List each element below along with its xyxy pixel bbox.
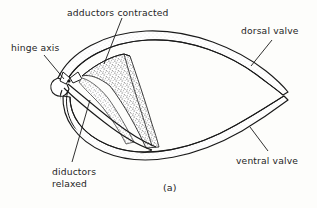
panel-label: (a) <box>163 182 177 194</box>
label-hinge-axis: hinge axis <box>11 42 60 54</box>
leader-dorsal-valve <box>251 40 272 66</box>
label-diductors-line2: relaxed <box>52 178 96 190</box>
label-ventral-valve: ventral valve <box>236 155 298 167</box>
leader-ventral-valve <box>250 127 268 151</box>
hinge-region <box>51 72 82 96</box>
label-diductors-relaxed: diductors relaxed <box>52 166 96 189</box>
ventral-valve <box>63 96 288 160</box>
label-adductors-contracted: adductors contracted <box>67 7 169 19</box>
adductor-muscles-contracted <box>79 54 159 148</box>
label-dorsal-valve: dorsal valve <box>241 25 299 37</box>
label-diductors-line1: diductors <box>52 166 96 178</box>
figure-page: adductors contracted hinge axis dorsal v… <box>0 0 317 208</box>
leader-hinge-axis <box>44 55 64 79</box>
